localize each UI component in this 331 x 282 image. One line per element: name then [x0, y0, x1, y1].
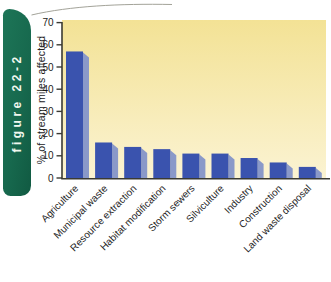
y-tick-label-30: 30 [42, 106, 54, 117]
figure-page: figure 22-2 % of stream miles affected 0… [0, 0, 331, 282]
y-tick-label-40: 40 [42, 84, 54, 95]
bar-industry [241, 158, 258, 178]
bar-side-agriculture [83, 52, 89, 178]
bar-habitat-modification [153, 149, 170, 178]
tab-swoosh-line [32, 4, 173, 15]
bar-construction [270, 162, 287, 178]
bar-municipal-waste [95, 142, 112, 178]
bar-resource-extraction [124, 147, 141, 178]
bar-chart-svg: 010203040506070AgricultureMunicipal wast… [0, 0, 331, 282]
y-tick-label-60: 60 [42, 39, 54, 50]
y-tick-label-20: 20 [42, 128, 54, 139]
bar-side-municipal-waste [112, 143, 118, 178]
bar-land-waste-disposal [299, 167, 316, 178]
y-tick-label-10: 10 [42, 150, 54, 161]
y-tick-label-0: 0 [48, 173, 54, 184]
y-tick-label-50: 50 [42, 62, 54, 73]
bar-silviculture [212, 154, 229, 178]
bar-side-resource-extraction [141, 148, 147, 178]
y-tick-label-70: 70 [42, 17, 54, 28]
bar-storm-sewers [182, 154, 199, 178]
bar-agriculture [66, 51, 83, 178]
